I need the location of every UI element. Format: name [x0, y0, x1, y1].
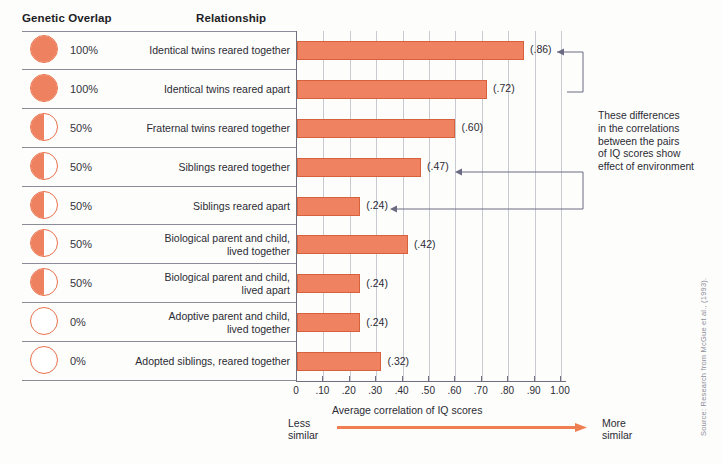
axis-tick-label: .60	[447, 385, 461, 396]
table-row: 50%Biological parent and child, lived ap…	[22, 264, 296, 303]
genetic-overlap-percent: 0%	[70, 355, 86, 367]
axis-tick	[322, 376, 323, 381]
relationship-label: Biological parent and child, lived apart	[165, 271, 291, 296]
axis-tick-label: .10	[315, 385, 329, 396]
axis-tick	[560, 376, 561, 381]
axis-tick-label: 1.00	[550, 385, 569, 396]
bar-value-label: (.72)	[493, 82, 515, 94]
relationship-label: Biological parent and child, lived toget…	[165, 232, 291, 257]
bar	[297, 274, 360, 293]
source-credit: Source: Research from McGue et al., (199…	[699, 246, 708, 436]
genetic-overlap-circle-icon	[30, 307, 60, 337]
axis-tick	[507, 376, 508, 381]
bar	[297, 235, 408, 254]
axis-tick	[349, 376, 350, 381]
x-axis-title: Average correlation of IQ scores	[332, 404, 482, 416]
bar-value-label: (.32)	[387, 355, 409, 367]
genetic-overlap-percent: 50%	[70, 277, 92, 289]
bar	[297, 197, 360, 216]
bar-value-label: (.24)	[366, 277, 388, 289]
gridline	[561, 31, 562, 381]
bar	[297, 41, 524, 60]
relationship-label: Adopted siblings, reared together	[135, 355, 290, 368]
genetic-overlap-percent: 50%	[70, 200, 92, 212]
relationship-label: Identical twins reared apart	[164, 83, 290, 96]
bar-value-label: (.47)	[427, 160, 449, 172]
bar-value-label: (.42)	[414, 238, 436, 250]
axis-tick	[428, 376, 429, 381]
table-row: 0%Adopted siblings, reared together	[22, 342, 296, 381]
gridline	[535, 31, 536, 381]
genetic-overlap-circle-icon	[30, 191, 60, 221]
genetic-overlap-percent: 50%	[70, 161, 92, 173]
genetic-overlap-circle-icon	[30, 152, 60, 182]
bar	[297, 158, 421, 177]
axis-more-similar-label: More similar	[602, 417, 632, 441]
genetic-overlap-percent: 100%	[70, 44, 98, 56]
column-header-genetic-overlap: Genetic Overlap	[22, 12, 112, 24]
bar	[297, 352, 381, 371]
axis-tick	[402, 376, 403, 381]
similarity-direction-arrow	[337, 423, 587, 432]
genetic-overlap-percent: 50%	[70, 238, 92, 250]
relationship-label: Siblings reared together	[179, 160, 291, 173]
relationship-label: Identical twins reared together	[149, 44, 290, 57]
axis-tick	[454, 376, 455, 381]
table-row: 100%Identical twins reared apart	[22, 70, 296, 109]
genetic-overlap-percent: 100%	[70, 83, 98, 95]
table-row: 50%Siblings reared apart	[22, 187, 296, 226]
table-row: 0%Adoptive parent and child, lived toget…	[22, 303, 296, 342]
bar-value-label: (.24)	[366, 316, 388, 328]
bar-value-label: (.60)	[461, 121, 483, 133]
axis-tick-label: .40	[395, 385, 409, 396]
axis-tick-label: .20	[342, 385, 356, 396]
relationship-table: 100%Identical twins reared together100%I…	[22, 31, 296, 381]
axis-tick-label: .90	[527, 385, 541, 396]
genetic-overlap-circle-icon	[30, 229, 60, 259]
genetic-overlap-percent: 0%	[70, 316, 86, 328]
genetic-overlap-circle-icon	[30, 74, 60, 104]
relationship-label: Fraternal twins reared together	[146, 121, 290, 134]
axis-tick	[481, 376, 482, 381]
environment-annotation: These differences in the correlations be…	[598, 110, 718, 174]
axis-tick-label: .30	[368, 385, 382, 396]
plot-area: (.86)(.72)(.60)(.47)(.24)(.42)(.24)(.24)…	[296, 31, 560, 381]
genetic-overlap-percent: 50%	[70, 122, 92, 134]
genetic-overlap-circle-icon	[30, 268, 60, 298]
axis-tick-label: .50	[421, 385, 435, 396]
table-row: 50%Fraternal twins reared together	[22, 109, 296, 148]
bar-value-label: (.86)	[530, 43, 552, 55]
bar	[297, 313, 360, 332]
genetic-overlap-circle-icon	[30, 35, 60, 65]
axis-tick-label: .80	[500, 385, 514, 396]
table-row: 50%Biological parent and child, lived to…	[22, 226, 296, 265]
column-header-relationship: Relationship	[196, 12, 266, 24]
axis-tick-label: .70	[474, 385, 488, 396]
axis-tick-label: 0	[293, 385, 299, 396]
relationship-label: Adoptive parent and child, lived togethe…	[169, 310, 290, 335]
bar	[297, 119, 455, 138]
chart-figure: Genetic Overlap Relationship 100%Identic…	[0, 0, 722, 464]
axis-tick	[534, 376, 535, 381]
bar-value-label: (.24)	[366, 199, 388, 211]
bar	[297, 80, 487, 99]
axis-tick	[375, 376, 376, 381]
axis-less-similar-label: Less similar	[288, 417, 318, 441]
genetic-overlap-circle-icon	[30, 346, 60, 376]
x-axis-line	[296, 381, 566, 382]
relationship-label: Siblings reared apart	[193, 199, 290, 212]
table-row: 100%Identical twins reared together	[22, 31, 296, 70]
table-row: 50%Siblings reared together	[22, 148, 296, 187]
genetic-overlap-circle-icon	[30, 113, 60, 143]
